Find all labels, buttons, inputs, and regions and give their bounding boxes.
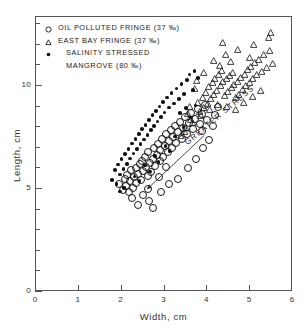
- data-point: [170, 91, 174, 95]
- data-point: [161, 100, 165, 104]
- data-point: [140, 127, 144, 131]
- data-point: [152, 124, 156, 128]
- data-point: [144, 123, 148, 127]
- data-point: [142, 138, 146, 142]
- data-point: [163, 111, 167, 115]
- data-point: [180, 82, 184, 86]
- data-point: [192, 155, 200, 163]
- data-point: [122, 186, 126, 190]
- y-tick: [35, 147, 40, 148]
- y-tick: [35, 250, 40, 251]
- open-triangle-icon: [44, 38, 53, 47]
- data-point: [173, 135, 177, 139]
- data-point: [135, 147, 139, 151]
- y-tick-label: 0: [11, 286, 31, 295]
- data-point: [120, 157, 124, 161]
- x-tick: [206, 285, 207, 291]
- data-point: [134, 201, 142, 209]
- filled-circle-icon: [44, 50, 53, 59]
- x-tick-label: 6: [282, 295, 302, 304]
- data-point: [182, 125, 186, 129]
- y-tick: [35, 85, 42, 86]
- data-point: [123, 152, 127, 156]
- data-point: [110, 178, 114, 182]
- data-point: [125, 162, 129, 166]
- y-tick: [35, 64, 40, 65]
- x-tick-label: 0: [25, 295, 45, 304]
- data-point: [116, 163, 120, 167]
- y-tick: [35, 291, 42, 292]
- data-point: [155, 173, 163, 181]
- x-tick-label: 3: [154, 295, 174, 304]
- data-point: [146, 133, 150, 137]
- data-point: [153, 154, 157, 158]
- data-point: [154, 109, 158, 113]
- y-tick: [35, 209, 40, 210]
- x-tick: [78, 285, 79, 291]
- y-tick: [35, 188, 42, 189]
- x-axis-title: Width, cm: [134, 311, 194, 322]
- data-point: [162, 163, 170, 171]
- data-point: [189, 116, 193, 120]
- data-point: [149, 128, 153, 132]
- data-point: [149, 204, 157, 212]
- data-point: [115, 182, 119, 186]
- data-point: [159, 115, 163, 119]
- data-point: [158, 105, 162, 109]
- data-point: [130, 142, 134, 146]
- data-point: [118, 190, 122, 194]
- data-point: [134, 137, 138, 141]
- y-tick-label: 10: [11, 80, 31, 89]
- data-point: [174, 175, 182, 183]
- data-point: [184, 164, 192, 172]
- y-tick: [35, 229, 40, 230]
- data-point: [185, 78, 189, 82]
- data-point: [128, 157, 132, 161]
- data-point: [196, 76, 200, 80]
- data-point: [144, 185, 152, 193]
- legend-label-oil-polluted-fringe: OIL POLLUTED FRINGE (37 ‰): [58, 23, 180, 32]
- x-tick: [164, 285, 165, 291]
- x-tick-label: 5: [239, 295, 259, 304]
- data-point: [157, 160, 161, 164]
- x-tick-label: 1: [68, 295, 88, 304]
- data-point: [143, 164, 147, 168]
- data-point: [148, 170, 152, 174]
- data-point: [188, 73, 192, 77]
- data-point: [199, 144, 207, 152]
- data-point: [132, 152, 136, 156]
- x-tick: [121, 285, 122, 291]
- data-point: [157, 188, 165, 196]
- data-point: [165, 180, 173, 188]
- data-point: [118, 173, 122, 177]
- data-point: [175, 87, 179, 91]
- data-point: [193, 69, 197, 73]
- data-point: [167, 106, 171, 110]
- y-tick: [35, 167, 40, 168]
- plot-frame: [35, 16, 292, 291]
- y-tick-label: 5: [11, 183, 31, 192]
- open-circle-icon: [44, 25, 53, 34]
- data-point: [156, 120, 160, 124]
- y-tick: [35, 106, 40, 107]
- x-tick-label: 4: [196, 295, 216, 304]
- legend-label-east-bay-fringe: EAST BAY FRINGE (37 ‰): [58, 36, 160, 45]
- data-point: [191, 88, 195, 92]
- legend-label-salinity-stressed-line1: SALINITY STRESSED: [66, 48, 150, 57]
- data-point: [147, 118, 151, 122]
- data-point: [177, 97, 181, 101]
- data-point: [184, 106, 188, 110]
- data-point: [178, 111, 182, 115]
- data-point: [127, 147, 131, 151]
- data-point: [113, 168, 117, 172]
- data-point: [122, 167, 126, 171]
- y-tick: [35, 270, 40, 271]
- x-tick: [249, 285, 250, 291]
- data-point: [165, 96, 169, 100]
- data-point: [137, 132, 141, 136]
- data-point: [139, 142, 143, 146]
- plot-area: [36, 17, 291, 290]
- x-tick-label: 2: [111, 295, 131, 304]
- y-axis-title: Length, cm: [11, 129, 22, 182]
- data-point: [182, 92, 186, 96]
